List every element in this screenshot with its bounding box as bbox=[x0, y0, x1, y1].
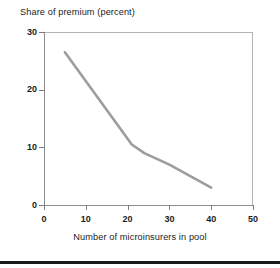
x-tick-mark bbox=[86, 205, 87, 210]
x-tick-label: 10 bbox=[81, 215, 91, 224]
x-axis-spine bbox=[44, 205, 253, 206]
x-tick-label: 20 bbox=[123, 215, 133, 224]
x-tick-label: 40 bbox=[206, 215, 216, 224]
y-tick-label: 10 bbox=[27, 143, 37, 152]
data-series-line bbox=[44, 32, 253, 205]
y-tick-label: 30 bbox=[27, 28, 37, 37]
y-tick-label: 20 bbox=[27, 85, 37, 94]
bottom-rule bbox=[0, 261, 280, 264]
y-tick-label: 0 bbox=[32, 201, 37, 210]
x-tick-mark bbox=[211, 205, 212, 210]
x-tick-mark bbox=[169, 205, 170, 210]
x-tick-label: 0 bbox=[41, 215, 46, 224]
x-tick-label: 50 bbox=[248, 215, 258, 224]
x-tick-label: 30 bbox=[164, 215, 174, 224]
x-tick-mark bbox=[253, 205, 254, 210]
chart-figure: Share of premium (percent) 0102030 01020… bbox=[0, 0, 280, 268]
y-axis-title: Share of premium (percent) bbox=[20, 7, 135, 17]
x-tick-mark bbox=[44, 205, 45, 210]
x-axis-title: Number of microinsurers in pool bbox=[0, 232, 280, 242]
x-tick-mark bbox=[128, 205, 129, 210]
